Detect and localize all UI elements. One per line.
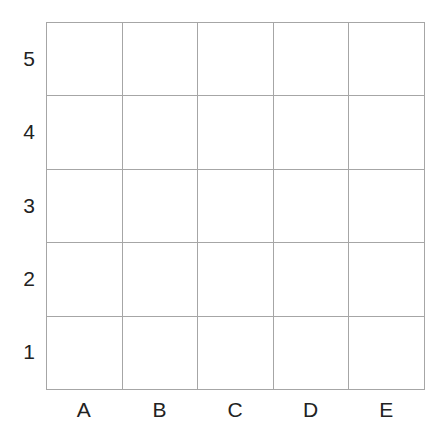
grid-cell-E1: [348, 316, 425, 390]
grid-cell-A3: [46, 169, 123, 243]
grid-cell-C3: [197, 169, 274, 243]
column-label-E: E: [371, 399, 401, 420]
grid-cell-A4: [46, 95, 123, 170]
grid-cell-A5: [46, 22, 123, 96]
grid-cell-C2: [197, 242, 274, 317]
row-label-2: 2: [14, 268, 44, 289]
grid-cell-D1: [273, 316, 349, 390]
coordinate-grid-diagram: 54321 ABCDE: [0, 0, 447, 438]
row-label-3: 3: [14, 195, 44, 216]
grid-cell-E5: [348, 22, 425, 96]
grid-cell-C5: [197, 22, 274, 96]
grid-cell-B5: [122, 22, 198, 96]
grid-cell-A1: [46, 316, 123, 390]
grid-cell-B1: [122, 316, 198, 390]
grid-cell-E2: [348, 242, 425, 317]
row-label-1: 1: [14, 341, 44, 362]
grid-cell-A2: [46, 242, 123, 317]
column-label-B: B: [144, 399, 174, 420]
row-label-5: 5: [14, 48, 44, 69]
grid-cell-C1: [197, 316, 274, 390]
column-label-C: C: [220, 399, 250, 420]
grid-cell-B2: [122, 242, 198, 317]
grid-cell-B3: [122, 169, 198, 243]
grid-cell-B4: [122, 95, 198, 170]
grid-cell-E3: [348, 169, 425, 243]
grid-cell-D3: [273, 169, 349, 243]
grid-cell-C4: [197, 95, 274, 170]
grid-cell-D2: [273, 242, 349, 317]
grid: [46, 22, 424, 389]
grid-cell-E4: [348, 95, 425, 170]
row-label-4: 4: [14, 121, 44, 142]
column-label-A: A: [69, 399, 99, 420]
grid-cell-D5: [273, 22, 349, 96]
grid-cell-D4: [273, 95, 349, 170]
column-label-D: D: [296, 399, 326, 420]
